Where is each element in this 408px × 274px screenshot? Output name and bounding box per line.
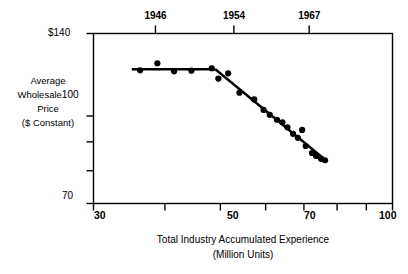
top-axis-label-1946: 1946	[144, 10, 166, 21]
y-tick-label-100: 100	[62, 89, 79, 100]
x-axis-title-sub: (Million Units)	[93, 247, 393, 262]
x-axis-title: Total Industry Accumulated Experience (M…	[93, 232, 393, 262]
top-axis-ticks	[155, 26, 309, 34]
y-axis-title-line-2: Wholesale100	[2, 88, 94, 102]
y-axis-title-line-1: Average	[2, 74, 94, 88]
x-tick-label-30: 30	[94, 210, 106, 221]
data-point	[154, 60, 160, 66]
data-point	[171, 68, 177, 74]
data-point	[267, 112, 273, 118]
top-axis-label-1967: 1967	[298, 10, 320, 21]
experience-curve-chart: $140 70 Average Wholesale100 Price ($ Co…	[0, 0, 408, 274]
data-point	[274, 117, 280, 123]
data-point	[137, 67, 143, 73]
top-axis-label-1954: 1954	[223, 10, 245, 21]
y-axis-title-line-4: ($ Constant)	[2, 116, 94, 130]
x-tick-label-100: 100	[379, 210, 397, 221]
y-axis-title-line-2-text: Wholesale	[17, 89, 61, 100]
data-point	[279, 119, 285, 125]
data-point	[303, 143, 309, 149]
data-point	[251, 96, 257, 102]
y-axis-title-line-3: Price	[2, 102, 94, 116]
data-point	[295, 135, 301, 141]
data-point	[260, 107, 266, 113]
y-axis-title: Average Wholesale100 Price ($ Constant)	[2, 74, 94, 130]
data-point	[299, 127, 305, 133]
x-axis-ticks	[94, 204, 393, 211]
data-point	[215, 75, 221, 81]
plot-frame	[94, 34, 393, 204]
data-point	[236, 90, 242, 96]
data-point	[322, 157, 328, 163]
data-point	[290, 131, 296, 137]
x-tick-label-50: 50	[227, 210, 239, 221]
x-axis-title-main: Total Industry Accumulated Experience	[93, 232, 393, 247]
y-tick-label-140: $140	[48, 27, 70, 38]
data-point	[225, 70, 231, 76]
y-tick-label-70: 70	[62, 190, 73, 201]
data-point	[284, 124, 290, 130]
x-tick-label-70: 70	[304, 210, 316, 221]
data-point	[188, 68, 194, 74]
data-point	[209, 65, 215, 71]
